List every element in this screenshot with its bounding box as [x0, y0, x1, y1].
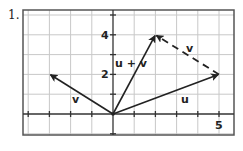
- label-v-dashed: v: [186, 42, 194, 55]
- vector-diagram: 5 2 4 v u u + v v: [0, 0, 243, 151]
- label-v: v: [72, 93, 80, 106]
- y-tick-label-4: 4: [101, 29, 109, 42]
- axes: [23, 10, 234, 135]
- label-u: u: [181, 93, 189, 106]
- label-u-plus-v: u + v: [115, 57, 148, 70]
- y-tick-label-2: 2: [101, 68, 109, 81]
- grid: [23, 10, 234, 135]
- origin-point: [111, 112, 115, 116]
- x-tick-label-5: 5: [215, 119, 223, 132]
- plot-frame: [23, 10, 234, 135]
